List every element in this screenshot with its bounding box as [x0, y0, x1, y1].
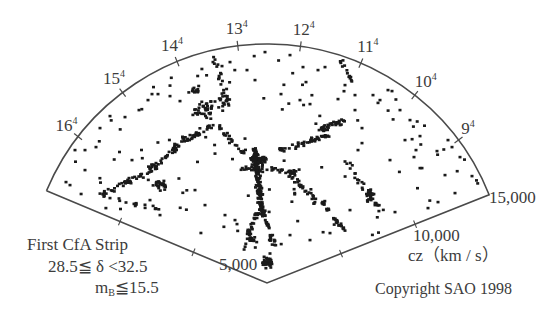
caption-title: First CfA Strip	[27, 235, 128, 254]
caption-magnitude: mB≦15.5	[95, 278, 159, 298]
ra-tick-labels: 16415414413412411410494	[55, 18, 474, 139]
ra-tick-12	[300, 41, 301, 51]
cz-axis-label: cz（km / s）	[408, 246, 499, 265]
cz-tick-10000: 10,000	[413, 226, 460, 245]
ra-label-14h: 144	[161, 35, 183, 55]
ra-label-16h: 164	[55, 115, 77, 135]
ra-label-15h: 154	[103, 68, 125, 88]
ra-label-13h: 134	[226, 18, 248, 38]
ra-tick-15	[120, 89, 126, 97]
ra-label-9h: 94	[461, 118, 475, 138]
copyright-text: Copyright SAO 1998	[375, 280, 512, 298]
cz-tick-15000: 15,000	[489, 188, 536, 207]
cfa-wedge-figure: 16415414413412411410494 5,000 10,000 15,…	[0, 0, 558, 321]
ra-label-10h: 104	[415, 71, 437, 91]
ra-tick-10	[412, 91, 418, 99]
caption-declination: 28.5≦ δ <32.5	[48, 257, 148, 276]
ra-label-12h: 124	[293, 19, 315, 39]
ra-label-11h: 114	[357, 36, 378, 56]
ra-tick-marks	[74, 41, 462, 143]
cz-tick-5000: 5,000	[219, 255, 257, 274]
wedge-plot: 16415414413412411410494 5,000 10,000 15,…	[0, 0, 558, 321]
ra-tick-13	[237, 41, 238, 51]
